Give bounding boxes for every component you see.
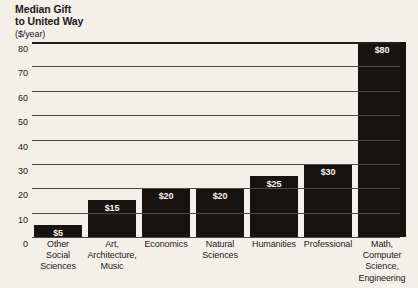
y-axis-tick-label-50: 50 (8, 117, 28, 127)
category-label-line: Science, (348, 261, 416, 272)
y-axis-tick-label-70: 70 (8, 68, 28, 78)
y-axis-tick-label-60: 60 (8, 93, 28, 103)
category-label-line: Sciences (186, 250, 254, 261)
gridline-50 (32, 115, 400, 116)
gridline-10 (32, 213, 400, 214)
page-title-line-1: Median Gift (15, 3, 83, 15)
y-axis-tick-label-80: 80 (8, 44, 28, 54)
gridline-60 (32, 91, 400, 92)
chart-title-block: Median Gift to United Way ($/year) (15, 3, 83, 39)
category-label-line: Architecture, (78, 250, 146, 261)
gridline-40 (32, 140, 400, 141)
y-axis-tick-label-30: 30 (8, 166, 28, 176)
plot-area: $5$15$20$20$25$30$80 01020304050607080 (32, 42, 400, 237)
category-label-6: Math,ComputerScience,Engineering (348, 239, 416, 284)
gridline-80 (32, 42, 400, 44)
bar-1: $15 (88, 200, 136, 237)
chart-container: Median Gift to United Way ($/year) $5$15… (0, 0, 418, 288)
bar-0: $5 (34, 225, 82, 237)
bar-value-label-6: $80 (358, 45, 406, 55)
y-axis-tick-label-40: 40 (8, 142, 28, 152)
category-label-line: Music (78, 261, 146, 272)
gridline-0 (32, 237, 400, 238)
category-axis-labels: OtherSocialSciencesArt,Architecture,Musi… (32, 239, 400, 287)
gridline-70 (32, 66, 400, 67)
category-label-line: Math, (348, 239, 416, 250)
bar-value-label-3: $20 (196, 191, 244, 201)
bar-value-label-5: $30 (304, 167, 352, 177)
chart-subtitle: ($/year) (15, 29, 83, 40)
bar-value-label-2: $20 (142, 191, 190, 201)
category-label-line: Computer (348, 250, 416, 261)
bar-5: $30 (304, 164, 352, 237)
category-label-line: Engineering (348, 273, 416, 284)
gridline-30 (32, 164, 400, 165)
page-title-line-2: to United Way (15, 15, 83, 27)
gridline-20 (32, 188, 400, 189)
y-axis-tick-label-10: 10 (8, 215, 28, 225)
bar-4: $25 (250, 176, 298, 237)
y-axis-tick-label-20: 20 (8, 190, 28, 200)
